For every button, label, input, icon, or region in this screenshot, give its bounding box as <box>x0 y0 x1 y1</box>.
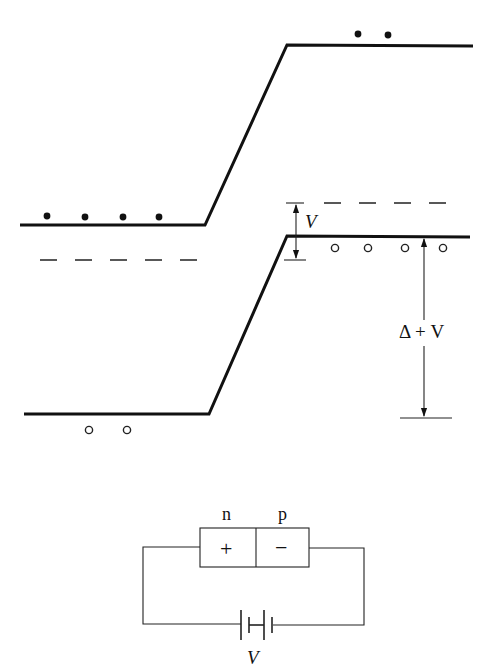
electrons-left <box>44 213 163 221</box>
holes-right <box>331 244 446 251</box>
battery-icon <box>241 610 272 640</box>
electrons-right <box>355 31 392 39</box>
gap-arrow-label: Δ + V <box>399 321 444 342</box>
circuit-wires <box>143 547 364 625</box>
p-region-label: p <box>278 504 287 524</box>
n-plus-sign: + <box>220 536 232 561</box>
p-minus-sign: − <box>275 535 287 560</box>
battery-voltage-label: V <box>247 647 261 668</box>
bias-arrow-label: V <box>305 211 319 232</box>
band-diagram: V Δ + V n p + − V <box>0 0 491 672</box>
pn-diode <box>200 528 309 567</box>
n-region-label: n <box>222 504 231 524</box>
holes-left <box>85 426 130 433</box>
bias-dimension-arrow <box>284 203 306 260</box>
conduction-band <box>20 45 473 225</box>
